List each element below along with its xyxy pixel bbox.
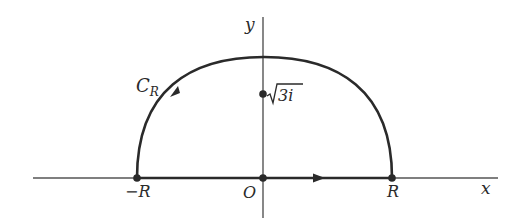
point-sqrt3i bbox=[259, 90, 267, 98]
label-contour-sub-r: R bbox=[149, 85, 159, 99]
sqrt3i-text: 3i bbox=[278, 86, 293, 105]
arc-direction-arrow-icon bbox=[170, 86, 180, 97]
segment-direction-arrow-icon bbox=[313, 174, 325, 183]
point-origin bbox=[259, 174, 267, 182]
label-contour-cr: CR bbox=[136, 75, 159, 99]
point-r bbox=[388, 174, 396, 182]
label-contour-c: C bbox=[136, 75, 150, 96]
contour-diagram: y x −R O R CR 3i bbox=[0, 0, 521, 223]
label-neg-r: −R bbox=[125, 182, 150, 201]
label-origin: O bbox=[243, 183, 256, 202]
semicircle-arc-cr bbox=[137, 57, 392, 178]
y-axis-label: y bbox=[244, 14, 255, 34]
x-axis-label: x bbox=[481, 178, 491, 198]
label-sqrt3i: 3i bbox=[267, 84, 303, 105]
point-neg-r bbox=[133, 174, 141, 182]
label-r: R bbox=[386, 182, 399, 201]
